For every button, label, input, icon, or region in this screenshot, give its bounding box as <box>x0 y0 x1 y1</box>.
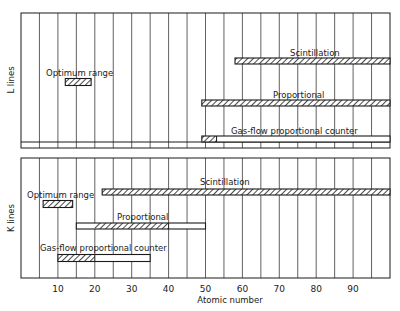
top-optimum-label: Optimum range <box>46 68 113 78</box>
x-axis-ticks: 102030405060708090 <box>52 284 359 294</box>
range-bar-hatched <box>65 79 91 86</box>
top-ylabel: L lines <box>6 66 16 94</box>
top-scintillation-label: Scintillation <box>290 48 340 58</box>
top-gasflow-label: Gas-flow proportional counter <box>231 126 358 136</box>
x-tick-label: 20 <box>89 284 101 294</box>
bottom-scintillation-label: Scintillation <box>200 177 250 187</box>
x-tick-label: 70 <box>274 284 286 294</box>
x-tick-label: 30 <box>126 284 138 294</box>
range-bar-hatched <box>58 255 95 262</box>
bottom-optimum-label: Optimum range <box>27 190 94 200</box>
bottom-gasflow-label: Gas-flow proportional counter <box>40 243 167 253</box>
range-bar-hatched <box>202 136 217 142</box>
x-tick-label: 90 <box>347 284 359 294</box>
x-tick-label: 60 <box>237 284 249 294</box>
x-tick-label: 50 <box>200 284 212 294</box>
range-bar-bg <box>202 136 390 142</box>
range-bar-hatched <box>43 201 73 208</box>
range-bar-hatched <box>202 100 390 106</box>
bottom-proportional-label: Proportional <box>117 212 168 222</box>
top-proportional-label: Proportional <box>273 90 324 100</box>
range-bar-hatched <box>102 189 390 195</box>
range-bar-hatched <box>235 58 390 64</box>
x-tick-label: 40 <box>163 284 175 294</box>
x-tick-label: 10 <box>52 284 64 294</box>
chart: L lines K lines Optimum range Scintillat… <box>0 0 400 311</box>
bottom-ylabel: K lines <box>6 203 16 232</box>
x-axis-label: Atomic number <box>197 295 263 305</box>
range-bar-hatched <box>95 223 169 229</box>
x-tick-label: 80 <box>310 284 322 294</box>
